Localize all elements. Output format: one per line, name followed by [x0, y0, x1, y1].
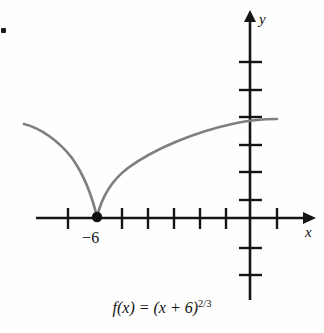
x-axis-arrowhead [303, 212, 316, 224]
caption-argument: (x) [117, 299, 135, 316]
x-intercept-label: −6 [82, 229, 100, 247]
y-axis [239, 10, 262, 300]
cusp-point-marker [92, 212, 102, 222]
figure-caption: f(x) = (x + 6)2/3 [0, 298, 324, 317]
plot-canvas [0, 0, 324, 333]
y-axis-arrowhead [244, 10, 256, 22]
function-curve [24, 119, 277, 217]
curve-left-branch [24, 124, 97, 217]
function-graph-figure: y x −6 f(x) = (x + 6)2/3 [0, 0, 324, 333]
y-axis-label: y [259, 12, 266, 27]
x-axis-label: x [305, 225, 312, 240]
caption-expression: = (x + 6) [135, 299, 198, 316]
caption-exponent: 2/3 [198, 298, 211, 309]
x-axis [36, 208, 316, 229]
